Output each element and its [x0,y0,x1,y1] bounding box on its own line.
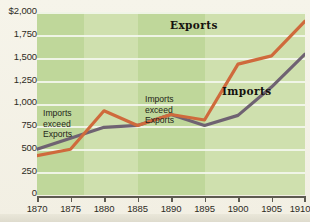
export-import-line-chart: Imports exceed Exports Imports exceed Ex… [0,0,310,222]
x-tick-1890 [171,196,173,202]
y-tick-label-1000: 1,000 [14,96,37,107]
x-tick-1870 [37,196,39,202]
annotation-imports-exceed-exports-1: Imports exceed Exports [43,108,72,140]
annotation-2-line-1: Imports [145,94,174,105]
x-tick-1875 [71,196,73,202]
annotation-2-line-2: exceed [145,105,174,116]
x-tick-label-1870: 1870 [27,203,48,214]
x-tick-label-1875: 1875 [60,203,81,214]
exports-series-label: Exports [170,19,218,31]
x-tick-1910 [304,196,306,202]
y-tick-label-1750: 1,750 [14,28,37,39]
x-tick-1880 [104,196,106,202]
page-scan-edge [0,214,310,222]
x-tick-label-1910: 1910 [290,203,310,214]
x-tick-label-1905: 1905 [261,203,282,214]
y-tick-label-500: 500 [21,142,37,153]
x-tick-1895 [205,196,207,202]
x-tick-1885 [138,196,140,202]
annotation-1-line-2: exceed [43,119,72,130]
y-tick-label-250: 250 [21,165,37,176]
x-tick-label-1885: 1885 [127,203,148,214]
x-tick-1900 [238,196,240,202]
y-tick-label-1500: 1,500 [14,51,37,62]
imports-series-label: Imports [222,85,271,97]
annotation-imports-exceed-exports-2: Imports exceed Exports [145,94,174,126]
y-tick-label-2000: $2,000 [9,5,37,16]
plot-area: Imports exceed Exports Imports exceed Ex… [37,12,305,195]
y-tick-label-1250: 1,250 [14,74,37,85]
x-tick-label-1895: 1895 [194,203,215,214]
x-tick-label-1880: 1880 [94,203,115,214]
annotation-1-line-1: Imports [43,108,72,119]
x-tick-label-1900: 1900 [228,203,249,214]
annotation-1-line-3: Exports [43,129,72,140]
x-tick-label-1890: 1890 [161,203,182,214]
y-tick-label-750: 750 [21,119,37,130]
annotation-2-line-3: Exports [145,115,174,126]
x-tick-1905 [272,196,274,202]
